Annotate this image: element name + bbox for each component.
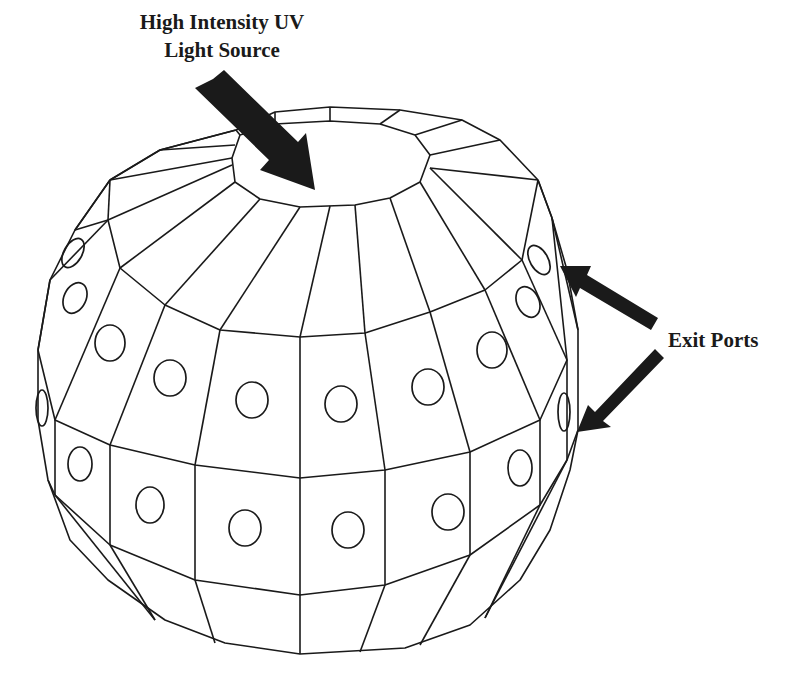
exit-ports-upper-row [57,235,555,422]
exit-port [58,279,91,317]
diagram-canvas: High Intensity UV Light Source Exit Port… [0,0,803,692]
exit-port [95,325,125,361]
exit-port [432,494,464,530]
exit-port [57,235,89,272]
exit-arrow-upper-icon [560,266,658,330]
exit-port [136,487,164,523]
exit-port [412,369,444,405]
uv-arrow-icon [195,70,315,190]
ring-2-boundary [75,165,552,337]
exit-port [68,447,92,481]
sphere-outline [38,107,578,654]
uv-light-source-label: High Intensity UV Light Source [112,8,332,64]
uv-label-line1: High Intensity UV [112,8,332,36]
exit-port [236,382,268,418]
exit-port [229,510,261,546]
exit-port [325,386,357,422]
upper-port-band [38,218,578,478]
exit-port [558,393,570,431]
exit-arrow-lower-icon [577,349,664,432]
exit-port [332,512,364,548]
exit-port [477,332,507,368]
exit-ports-lower-row [36,390,570,548]
bottom-band [55,460,567,654]
exit-port [508,450,532,486]
exit-port [511,283,544,321]
uv-label-line2: Light Source [112,36,332,64]
exit-ports-label: Exit Ports [668,326,758,354]
exit-port [154,360,186,396]
